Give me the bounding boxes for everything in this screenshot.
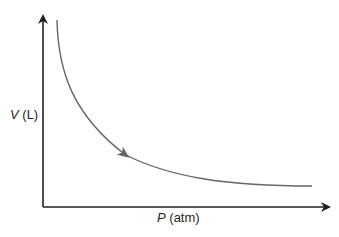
pv-curve-segment-2 — [124, 154, 312, 186]
y-axis-label: V (L) — [10, 108, 38, 121]
y-axis-variable: V — [10, 107, 19, 122]
x-axis-variable: P — [157, 210, 166, 225]
y-axis-unit: (L) — [22, 107, 38, 122]
x-axis-label: P (atm) — [157, 211, 200, 224]
x-axis-unit: (atm) — [169, 210, 199, 225]
pv-curve-segment-1 — [57, 20, 127, 156]
boyles-law-chart — [0, 0, 339, 237]
